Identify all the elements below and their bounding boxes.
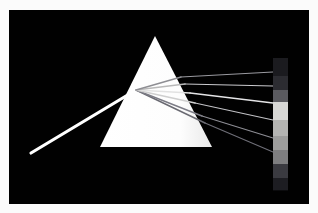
ray-yellow xyxy=(190,93,273,103)
band-ultraviolet xyxy=(273,178,288,190)
band-cyan xyxy=(273,136,288,150)
band-infrared xyxy=(273,58,288,76)
prism-scene xyxy=(9,10,309,204)
band-yellow xyxy=(273,102,288,120)
ray-blue xyxy=(202,116,273,138)
black-background-field xyxy=(9,10,309,204)
ray-orange xyxy=(185,84,273,86)
band-orange xyxy=(273,90,288,102)
band-blue xyxy=(273,150,288,164)
band-red xyxy=(273,76,288,90)
prism-image-stage xyxy=(0,0,318,213)
ray-red xyxy=(181,72,273,77)
band-violet xyxy=(273,164,288,178)
band-green xyxy=(273,120,288,136)
spectrum-strip xyxy=(273,58,288,190)
